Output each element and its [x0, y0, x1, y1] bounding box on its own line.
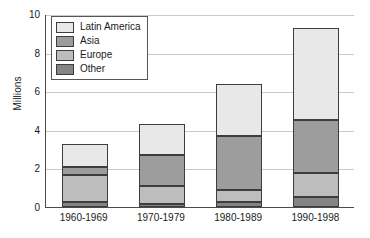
legend-item[interactable]: Other	[56, 62, 141, 76]
chart-legend: Latin AmericaAsiaEuropeOther	[51, 16, 148, 80]
y-axis-tick-label: 10	[14, 9, 40, 20]
y-axis-tick-label: 2	[14, 163, 40, 174]
y-axis-tick-label: 6	[14, 86, 40, 97]
legend-swatch-icon	[56, 36, 74, 47]
legend-label: Asia	[80, 36, 99, 46]
legend-swatch-icon	[56, 22, 74, 33]
legend-label: Latin America	[80, 22, 141, 32]
legend-swatch-icon	[56, 64, 74, 75]
legend-item[interactable]: Europe	[56, 48, 141, 62]
legend-swatch-icon	[56, 50, 74, 61]
y-axis-tick-label: 4	[14, 125, 40, 136]
y-axis-tick-label: 0	[14, 202, 40, 213]
stacked-bar-chart: Millions 0246810 1960-19691970-19791980-…	[0, 0, 370, 238]
legend-label: Other	[80, 64, 105, 74]
legend-item[interactable]: Asia	[56, 34, 141, 48]
x-axis-tick-label: 1990-1998	[269, 212, 361, 223]
legend-label: Europe	[80, 50, 112, 60]
y-axis-tick-label: 8	[14, 48, 40, 59]
legend-item[interactable]: Latin America	[56, 20, 141, 34]
